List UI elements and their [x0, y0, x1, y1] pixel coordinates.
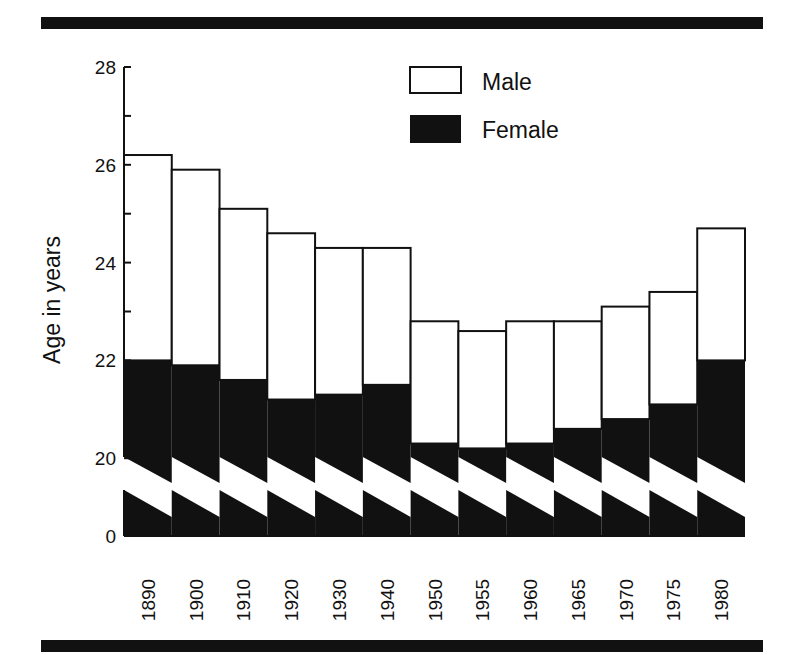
- bar-female: [506, 444, 554, 483]
- legend: Male Female: [410, 67, 559, 143]
- x-tick-label: 1965: [568, 579, 589, 621]
- legend-swatch-female: [410, 115, 461, 143]
- bar-male: [220, 209, 268, 380]
- bar-female-base: [124, 490, 172, 536]
- chart-svg: 02022242628 1890190019101920193019401950…: [0, 0, 794, 655]
- bar-female-base: [649, 490, 697, 536]
- bar-female-base: [315, 490, 363, 536]
- y-tick-label: 0: [105, 526, 116, 547]
- x-tick-label: 1940: [377, 579, 398, 621]
- x-tick-label: 1960: [520, 579, 541, 621]
- bar-female: [172, 365, 220, 483]
- bar-male: [554, 321, 602, 429]
- bar-female-base: [602, 490, 650, 536]
- x-tick-label: 1980: [711, 579, 732, 621]
- bar-female-base: [506, 490, 554, 536]
- bar-female: [220, 380, 268, 483]
- y-axis-label: Age in years: [39, 236, 65, 364]
- x-tick-label: 1900: [186, 579, 207, 621]
- x-tick-label: 1910: [233, 579, 254, 621]
- x-tick-label: 1970: [616, 579, 637, 621]
- legend-swatch-male: [410, 67, 461, 93]
- bar-female: [124, 360, 172, 483]
- bar-male: [649, 292, 697, 404]
- bar-female: [649, 404, 697, 483]
- bar-female: [267, 400, 315, 483]
- bar-male: [697, 228, 745, 360]
- bar-female: [458, 448, 506, 483]
- bar-female: [697, 360, 745, 483]
- bar-male: [124, 155, 172, 360]
- x-tick-label: 1920: [281, 579, 302, 621]
- x-tick-label: 1950: [425, 579, 446, 621]
- bar-male: [602, 307, 650, 419]
- x-tick-label: 1890: [138, 579, 159, 621]
- bar-female: [602, 419, 650, 483]
- bar-male: [172, 170, 220, 366]
- bars: [124, 155, 745, 536]
- y-tick-labels: 02022242628: [95, 57, 117, 547]
- bar-female: [554, 429, 602, 483]
- x-tick-label: 1955: [472, 579, 493, 621]
- bar-female-base: [697, 490, 745, 536]
- bar-male: [363, 248, 411, 385]
- bar-female-base: [172, 490, 220, 536]
- bar-male: [458, 331, 506, 448]
- bar-male: [267, 233, 315, 399]
- bar-female-base: [554, 490, 602, 536]
- legend-label-female: Female: [482, 117, 559, 143]
- bar-male: [411, 321, 459, 443]
- y-tick-label: 26: [95, 155, 116, 176]
- bar-female: [411, 444, 459, 483]
- x-tick-label: 1975: [663, 579, 684, 621]
- x-tick-labels: 1890190019101920193019401950195519601965…: [138, 579, 732, 621]
- bar-female-base: [363, 490, 411, 536]
- legend-label-male: Male: [482, 69, 532, 95]
- y-tick-label: 24: [95, 253, 117, 274]
- bar-male: [506, 321, 554, 443]
- y-tick-label: 20: [95, 448, 116, 469]
- bar-female-base: [220, 490, 268, 536]
- bar-female-base: [267, 490, 315, 536]
- y-tick-label: 22: [95, 350, 116, 371]
- bar-female: [315, 395, 363, 483]
- bar-female: [363, 385, 411, 483]
- bar-female-base: [411, 490, 459, 536]
- bar-male: [315, 248, 363, 395]
- x-tick-label: 1930: [329, 579, 350, 621]
- y-tick-label: 28: [95, 57, 116, 78]
- bar-female-base: [458, 490, 506, 536]
